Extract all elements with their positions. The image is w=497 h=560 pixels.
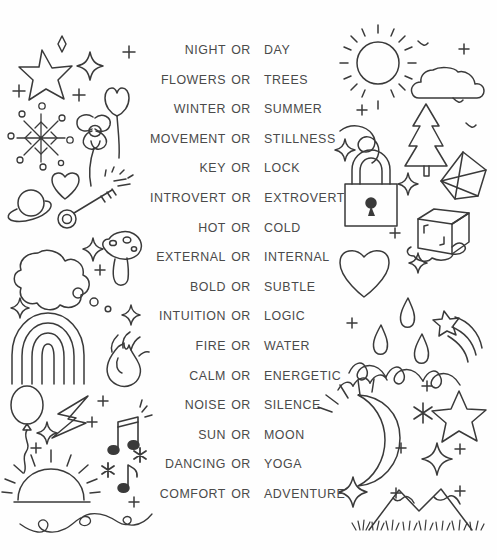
sparkle-icon <box>11 298 29 318</box>
option-separator: OR <box>226 66 256 96</box>
list-row: WINTERORSUMMER <box>150 95 350 125</box>
option-left[interactable]: HOT <box>150 214 226 244</box>
crystal-gem-icon <box>441 152 486 199</box>
sparkle-icon <box>77 52 103 80</box>
star-icon <box>432 391 486 442</box>
tulip-icon <box>105 88 129 158</box>
snowflake-icon <box>8 103 73 170</box>
ice-cube-icon <box>407 209 469 261</box>
option-right[interactable]: TREES <box>256 66 350 96</box>
list-row: DANCINGORYOGA <box>150 450 350 480</box>
option-separator: OR <box>226 36 256 66</box>
option-left[interactable]: FIRE <box>150 332 226 362</box>
option-right[interactable]: SUBTLE <box>256 273 350 303</box>
grass-icon <box>352 520 484 530</box>
sparkle-icon <box>398 173 418 195</box>
option-right[interactable]: WATER <box>256 332 350 362</box>
option-right[interactable]: YOGA <box>256 450 350 480</box>
mountains-icon <box>369 489 472 530</box>
plus-icon <box>87 417 97 427</box>
sparkle-icon <box>409 253 427 273</box>
option-left[interactable]: DANCING <box>150 450 226 480</box>
saturn-planet-icon <box>8 190 51 221</box>
option-left[interactable]: NIGHT <box>150 36 226 66</box>
option-right[interactable]: MOON <box>256 421 350 451</box>
water-drop-icon <box>400 298 414 327</box>
flower-icon <box>77 115 110 186</box>
sparkle-icon <box>58 36 66 52</box>
cloud-icon <box>411 68 484 98</box>
option-right[interactable]: DAY <box>256 36 350 66</box>
option-left[interactable]: CALM <box>150 362 226 392</box>
mushroom-icon <box>103 232 142 286</box>
waves-icon <box>338 363 460 390</box>
option-right[interactable]: ADVENTURE <box>256 480 350 510</box>
option-right[interactable]: SILENCE <box>256 391 350 421</box>
fire-icon <box>107 332 149 386</box>
option-separator: OR <box>226 362 256 392</box>
option-right[interactable]: ENERGETIC <box>256 362 350 392</box>
option-separator: OR <box>226 125 256 155</box>
sparkle-icon <box>83 238 103 261</box>
option-separator: OR <box>226 450 256 480</box>
plus-icon <box>459 44 469 54</box>
option-right[interactable]: COLD <box>256 214 350 244</box>
option-separator: OR <box>226 332 256 362</box>
plus-icon <box>129 497 139 507</box>
option-left[interactable]: INTUITION <box>150 302 226 332</box>
plus-icon <box>357 105 367 115</box>
list-row: BOLDORSUBTLE <box>150 273 350 303</box>
option-left[interactable]: KEY <box>150 154 226 184</box>
option-right[interactable]: STILLNESS <box>256 125 350 155</box>
list-row: INTUITIONORLOGIC <box>150 302 350 332</box>
plus-icon <box>123 46 135 58</box>
option-separator: OR <box>226 95 256 125</box>
list-row: FIREORWATER <box>150 332 350 362</box>
option-right[interactable]: LOCK <box>256 154 350 184</box>
list-row: INTROVERTOREXTROVERT <box>150 184 350 214</box>
option-left[interactable]: MOVEMENT <box>150 125 226 155</box>
option-left[interactable]: COMFORT <box>150 480 226 510</box>
option-right[interactable]: LOGIC <box>256 302 350 332</box>
option-right[interactable]: INTERNAL <box>256 243 350 273</box>
plus-icon <box>455 486 465 496</box>
option-left[interactable]: INTROVERT <box>150 184 226 214</box>
option-separator: OR <box>226 154 256 184</box>
rainbow-icon <box>12 313 84 384</box>
option-separator: OR <box>226 214 256 244</box>
option-left[interactable]: WINTER <box>150 95 226 125</box>
heart-icon <box>52 173 79 199</box>
bird-icon <box>418 41 428 45</box>
this-or-that-list: NIGHTORDAYFLOWERSORTREESWINTERORSUMMERMO… <box>150 36 350 510</box>
sun-icon <box>340 25 416 109</box>
plus-icon <box>73 89 85 101</box>
water-drop-icon <box>373 325 387 354</box>
option-left[interactable]: BOLD <box>150 273 226 303</box>
option-separator: OR <box>226 302 256 332</box>
asterisk-icon <box>414 403 432 423</box>
option-left[interactable]: SUN <box>150 421 226 451</box>
sparkle-icon <box>422 443 452 475</box>
option-separator: OR <box>226 243 256 273</box>
bubbles-icon <box>73 288 111 312</box>
list-row: SUNORMOON <box>150 421 350 451</box>
list-row: NOISEORSILENCE <box>150 391 350 421</box>
bird-icon <box>466 123 476 127</box>
list-row: EXTERNALORINTERNAL <box>150 243 350 273</box>
cloud-icon <box>14 250 89 309</box>
option-left[interactable]: EXTERNAL <box>150 243 226 273</box>
plus-icon <box>391 488 401 498</box>
option-separator: OR <box>226 421 256 451</box>
lightning-bolt-icon <box>52 396 88 438</box>
list-row: NIGHTORDAY <box>150 36 350 66</box>
option-separator: OR <box>226 273 256 303</box>
option-right[interactable]: EXTROVERT <box>256 184 350 214</box>
option-right[interactable]: SUMMER <box>256 95 350 125</box>
option-separator: OR <box>226 184 256 214</box>
asterisk-icon <box>102 463 114 477</box>
option-left[interactable]: FLOWERS <box>150 66 226 96</box>
asterisk-icon <box>134 448 146 462</box>
option-left[interactable]: NOISE <box>150 391 226 421</box>
plus-icon <box>13 85 25 97</box>
option-separator: OR <box>226 391 256 421</box>
